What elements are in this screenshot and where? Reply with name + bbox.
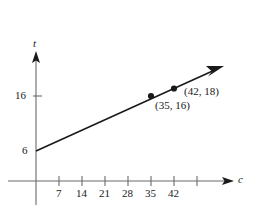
x-tick-label-21: 21 xyxy=(99,188,110,199)
x-tick-label-35: 35 xyxy=(145,188,156,199)
x-tick-label-14: 14 xyxy=(76,188,87,199)
point-annotation-42-18: (42, 18) xyxy=(184,86,219,97)
y-tick-label-16: 16 xyxy=(15,90,26,101)
data-point-35-16 xyxy=(148,93,154,99)
y-tick-label-6: 6 xyxy=(22,145,28,156)
graph-figure: t c 16 6 7 14 21 28 35 42 (42, 18) (35, … xyxy=(0,0,258,211)
data-line-arrowhead xyxy=(206,66,224,77)
point-annotation-35-16: (35, 16) xyxy=(155,100,190,111)
y-axis-label: t xyxy=(33,38,36,49)
x-tick-label-42: 42 xyxy=(168,188,179,199)
x-tick-label-28: 28 xyxy=(122,188,133,199)
coordinate-plane-svg xyxy=(0,0,258,211)
x-axis-label: c xyxy=(238,174,243,185)
x-tick-label-7: 7 xyxy=(56,188,62,199)
data-point-42-18 xyxy=(171,85,177,91)
